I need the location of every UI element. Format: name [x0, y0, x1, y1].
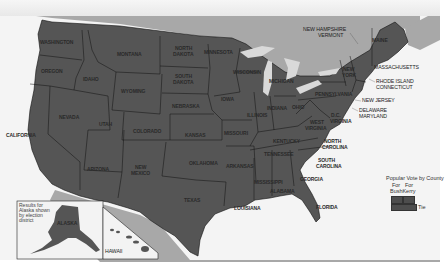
- label-arkansas: ARKANSAS: [226, 163, 254, 169]
- label-new-york-2: YORK: [342, 72, 357, 78]
- label-missouri: MISSOURI: [224, 130, 249, 136]
- label-indiana: INDIANA: [267, 105, 288, 111]
- label-oklahoma: OKLAHOMA: [189, 160, 218, 166]
- label-florida: FLORIDA: [316, 204, 338, 210]
- label-alaska: ALASKA: [57, 220, 78, 226]
- label-nevada: NEVADA: [59, 114, 80, 120]
- label-hawaii: HAWAII: [105, 248, 122, 254]
- legend-tie-label: Tie: [418, 204, 425, 210]
- label-georgia: GEORGIA: [300, 176, 323, 182]
- label-washington: WASHINGTON: [40, 39, 74, 45]
- label-dc: D.C.: [331, 112, 341, 118]
- label-massachusetts: MASSACHUSETTS: [374, 64, 419, 70]
- label-new-jersey: NEW JERSEY: [362, 97, 395, 103]
- label-mississippi: MISSISSIPPI: [254, 179, 283, 185]
- label-pennsylvania: PENNSYLVANIA: [315, 91, 353, 97]
- label-montana: MONTANA: [117, 51, 142, 57]
- legend-title: Popular Vote by County: [386, 175, 444, 181]
- label-california: CALIFORNIA: [6, 132, 36, 138]
- label-michigan: MICHIGAN: [269, 78, 294, 84]
- label-illinois: ILLINOIS: [247, 112, 268, 118]
- label-kentucky: KENTUCKY: [273, 138, 301, 144]
- label-utah: UTAH: [99, 121, 113, 127]
- label-louisiana: LOUISIANA: [234, 205, 261, 211]
- label-maine: MAINE: [372, 37, 388, 43]
- label-oregon: OREGON: [41, 68, 63, 74]
- label-maryland: MARYLAND: [359, 113, 387, 119]
- label-wyoming: WYOMING: [121, 88, 146, 94]
- label-wisconsin: WISCONSIN: [233, 69, 261, 75]
- label-colorado: COLORADO: [133, 128, 162, 134]
- label-tennessee: TENNESSEE: [264, 151, 294, 157]
- label-texas: TEXAS: [184, 197, 201, 203]
- label-virginia: VIRGINIA: [330, 118, 352, 124]
- label-west-virginia-2: VIRGINIA: [305, 125, 327, 131]
- label-connecticut: CONNECTICUT: [376, 84, 414, 90]
- alaska-inset-note: Results for Alaska shown by election dis…: [19, 203, 53, 223]
- legend-swatch-tie: [391, 204, 417, 211]
- label-minnesota: MINNESOTA: [204, 49, 233, 55]
- legend-swatch-kerry: [403, 196, 415, 204]
- legend-swatch-bush: [391, 196, 403, 204]
- label-nebraska: NEBRASKA: [172, 103, 200, 109]
- label-vermont: VERMONT: [318, 32, 344, 38]
- label-new-mexico-2: MEXICO: [131, 170, 150, 176]
- label-south-dakota-2: DAKOTA: [173, 79, 194, 85]
- label-arizona: ARIZONA: [87, 166, 110, 172]
- label-south-carolina-2: CAROLINA: [316, 163, 342, 169]
- label-ohio: OHIO: [292, 104, 305, 110]
- label-north-dakota-2: DAKOTA: [173, 51, 194, 57]
- legend-bush-label: For Bush: [390, 182, 402, 194]
- label-iowa: IOWA: [221, 96, 234, 102]
- label-north-carolina-2: CAROLINA: [322, 144, 348, 150]
- legend-kerry-label: For Kerry: [402, 182, 416, 194]
- label-idaho: IDAHO: [83, 76, 99, 82]
- label-kansas: KANSAS: [185, 132, 206, 138]
- label-alabama: ALABAMA: [270, 188, 295, 194]
